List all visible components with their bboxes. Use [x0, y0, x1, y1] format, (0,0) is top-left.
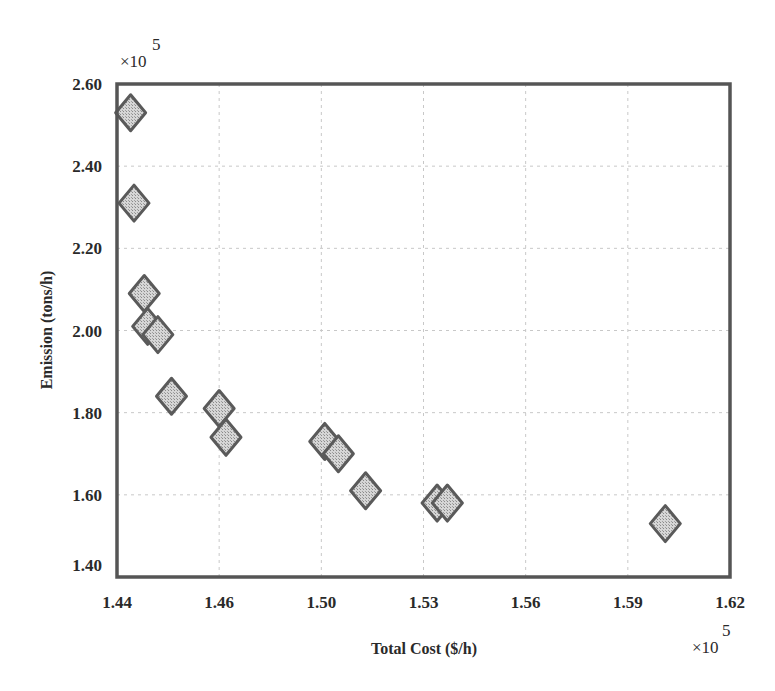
- x-tick-label: 1.59: [613, 593, 643, 612]
- x-tick-label: 1.46: [204, 593, 234, 612]
- data-point-diamond: [351, 473, 381, 509]
- data-point-diamond: [650, 506, 680, 542]
- y-axis-multiplier-exponent: 5: [152, 35, 161, 54]
- y-axis-title: Emission (tons/h): [38, 271, 56, 390]
- data-point-diamond: [211, 419, 241, 455]
- data-point-diamond: [119, 185, 149, 221]
- scatter-chart: 1.401.601.802.002.202.402.60 1.441.461.5…: [0, 0, 775, 691]
- y-tick-label: 2.20: [72, 239, 102, 258]
- x-axis-multiplier-exponent: 5: [722, 621, 731, 640]
- y-tick-label: 2.40: [72, 157, 102, 176]
- x-axis-title: Total Cost ($/h): [371, 640, 477, 658]
- data-point-diamond: [204, 391, 234, 427]
- y-tick-label: 1.60: [72, 486, 102, 505]
- y-tick-label: 2.00: [72, 322, 102, 341]
- y-tick-label: 2.60: [72, 75, 102, 94]
- x-tick-label: 1.56: [511, 593, 541, 612]
- x-tick-label: 1.62: [715, 593, 745, 612]
- x-tick-label: 1.44: [102, 593, 132, 612]
- data-point-diamond: [116, 95, 146, 131]
- data-point-diamond: [129, 276, 159, 312]
- x-axis-tick-labels: 1.441.461.501.531.561.591.62: [102, 593, 745, 612]
- x-tick-label: 1.53: [409, 593, 439, 612]
- data-point-diamond: [156, 378, 186, 414]
- data-points: [116, 95, 681, 542]
- y-axis-tick-labels: 1.401.601.802.002.202.402.60: [72, 75, 102, 575]
- x-tick-label: 1.50: [306, 593, 336, 612]
- x-axis-multiplier: ×10: [692, 638, 719, 657]
- y-tick-label: 1.80: [72, 404, 102, 423]
- y-axis-multiplier: ×10: [120, 52, 147, 71]
- y-tick-label: 1.40: [72, 556, 102, 575]
